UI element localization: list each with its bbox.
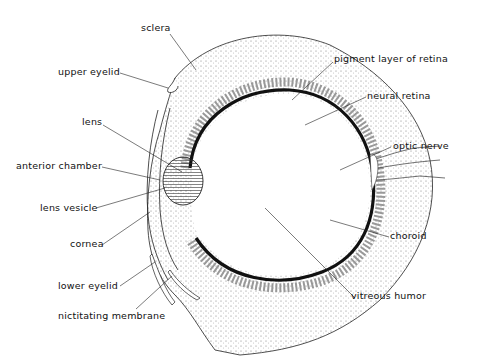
label-lens-vesicle: lens vesicle: [40, 202, 98, 213]
label-choroid: choroid: [390, 230, 427, 241]
label-anterior-chamber: anterior chamber: [16, 160, 102, 171]
label-nictitating-membrane: nictitating membrane: [58, 310, 165, 321]
label-lower-eyelid: lower eyelid: [58, 280, 118, 291]
label-vitreous-humor: vitreous humor: [351, 290, 426, 301]
label-cornea: cornea: [70, 238, 104, 249]
vitreous-body: [191, 94, 369, 276]
label-pigment-layer: pigment layer of retina: [334, 53, 448, 64]
label-neural-retina: neural retina: [367, 90, 431, 101]
label-upper-eyelid: upper eyelid: [58, 66, 120, 77]
label-sclera: sclera: [141, 22, 171, 33]
label-optic-nerve: optic nerve: [393, 140, 449, 151]
label-lens: lens: [82, 116, 102, 127]
